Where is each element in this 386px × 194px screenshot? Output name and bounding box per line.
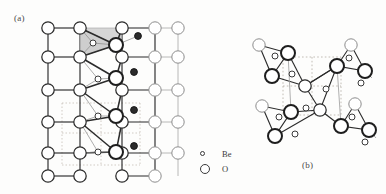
o-legend-circle-icon <box>200 164 220 174</box>
crystal-structure-drawing <box>0 0 386 194</box>
legend: Be O <box>200 146 270 176</box>
panel-a-label: (a) <box>14 13 25 23</box>
figure-container: (a) (b) Be O <box>0 0 386 194</box>
legend-label-be: Be <box>220 149 231 159</box>
panel-b-group <box>253 39 376 145</box>
legend-item-be: Be <box>200 146 270 161</box>
panel-a-group <box>42 22 184 182</box>
panel-a-cell-guides <box>62 103 140 165</box>
panel-b-label: (b) <box>302 160 313 170</box>
legend-label-o: O <box>220 164 228 174</box>
legend-item-o: O <box>200 161 270 176</box>
be-legend-circle-icon <box>200 151 220 156</box>
